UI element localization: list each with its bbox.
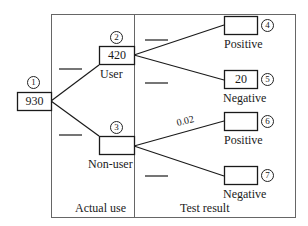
branch-3-7: [134, 146, 224, 176]
node-label-negative-5: Negative: [223, 92, 266, 104]
node-value-1: 930: [17, 92, 52, 111]
node-value-2: 420: [99, 46, 135, 65]
branch-2-5: [134, 55, 224, 80]
marker-2-icon: 2: [110, 31, 123, 44]
marker-4-icon: 4: [261, 19, 274, 32]
node-label-positive-6: Positive: [224, 134, 263, 146]
node-label-positive-4: Positive: [224, 38, 263, 50]
node-box-3: [100, 137, 135, 155]
marker-1-icon: 1: [27, 76, 40, 89]
branch-1-3: [51, 101, 99, 136]
node-box-6: [225, 113, 258, 131]
marker-5-icon: 5: [261, 73, 274, 86]
section-title-test-result: Test result: [180, 202, 229, 214]
node-box-7: [225, 167, 258, 185]
node-value-5: 20: [224, 70, 258, 89]
section-title-actual-use: Actual use: [75, 202, 126, 214]
node-label-negative-7: Negative: [223, 188, 266, 200]
marker-3-icon: 3: [110, 121, 123, 134]
node-label-user: User: [100, 68, 123, 80]
marker-6-icon: 6: [261, 115, 274, 128]
branch-1-2: [51, 65, 99, 101]
node-box-4: [225, 17, 258, 35]
node-label-non-user: Non-user: [88, 158, 133, 170]
marker-7-icon: 7: [261, 169, 274, 182]
